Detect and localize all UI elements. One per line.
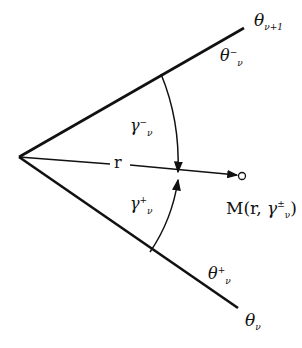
label-theta-minus: θ−ν: [220, 48, 243, 68]
label-theta-nu: θν: [245, 312, 261, 332]
label-point-m: M(r, γ±ν): [226, 200, 297, 220]
arc-lower: [150, 180, 178, 252]
arc-upper: [161, 74, 178, 172]
label-theta-nu-plus-1: θν+1: [254, 12, 283, 32]
diagram-graphics: [0, 0, 302, 348]
upper-ray: [19, 28, 244, 157]
radius-line-2: [130, 165, 237, 175]
label-theta-plus: θ+ν: [208, 266, 231, 286]
radius-line: [19, 157, 110, 164]
point-m: [239, 173, 246, 180]
sector-diagram: θν+1 θ−ν γ−ν r γ+ν M(r, γ±ν) θ+ν θν: [0, 0, 302, 348]
label-r: r: [114, 155, 122, 171]
label-gamma-minus: γ−ν: [130, 118, 153, 138]
lower-ray: [19, 157, 238, 308]
label-gamma-plus: γ+ν: [130, 196, 153, 216]
